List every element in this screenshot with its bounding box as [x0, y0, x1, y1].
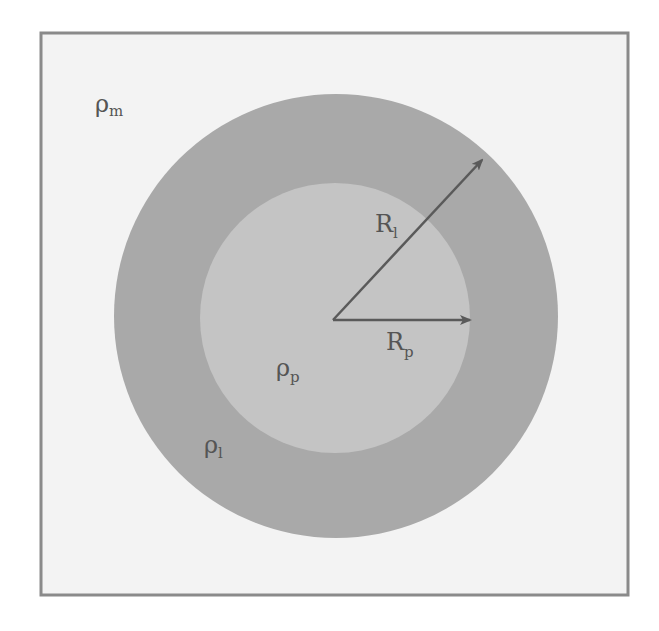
core-shell-diagram: ρm Rl Rp ρp ρl: [0, 0, 659, 631]
